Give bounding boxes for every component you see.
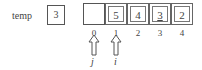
cell-value-wrapper: 3	[152, 6, 168, 22]
array-cell-2: 4	[127, 3, 149, 25]
cell-value: 3	[157, 9, 163, 21]
cell-value: 4	[130, 6, 146, 22]
up-arrow-icon	[110, 34, 122, 56]
array-cell-4: 2	[171, 3, 193, 25]
pointer-label-j: j	[91, 56, 94, 67]
index-label-4: 4	[171, 28, 193, 38]
up-arrow-icon	[88, 34, 100, 56]
cell-value: 2	[174, 6, 190, 22]
index-label-3: 3	[149, 28, 171, 38]
temp-label: temp	[12, 10, 32, 21]
temp-box: 3	[47, 5, 65, 25]
pointer-label-i: i	[114, 56, 117, 67]
array-cell-0	[83, 3, 105, 25]
index-label-2: 2	[127, 28, 149, 38]
cell-value: 5	[108, 6, 124, 22]
array-cell-1: 5	[105, 3, 127, 25]
array-cell-3: 3	[149, 3, 171, 25]
